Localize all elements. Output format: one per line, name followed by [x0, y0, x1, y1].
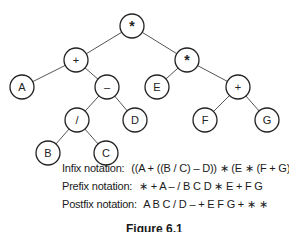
node-label: *: [184, 52, 190, 68]
postfix-expression: A B C / D – + E F G + ∗ ∗: [143, 198, 267, 210]
node-label: E: [153, 81, 160, 93]
tree-node-e: E: [145, 75, 169, 99]
node-label: B: [44, 147, 51, 159]
infix-notation: Infix notation: ((A + ((B / C) – D)) ∗ (…: [62, 162, 289, 175]
tree-node-div: /: [65, 108, 89, 132]
postfix-label: Postfix notation:: [62, 198, 137, 210]
node-label: C: [102, 147, 110, 159]
infix-expression: ((A + ((B / C) – D)) ∗ (E ∗ (F + G))): [131, 162, 289, 174]
prefix-label: Prefix notation:: [62, 180, 132, 192]
tree-node-a: A: [10, 75, 34, 99]
tree-node-d: D: [123, 108, 147, 132]
tree-node-b: B: [36, 141, 60, 165]
infix-label: Infix notation:: [62, 162, 124, 174]
node-label: D: [131, 114, 139, 126]
node-label: F: [202, 114, 209, 126]
tree-node-root: *: [120, 14, 144, 38]
tree-node-g: G: [255, 108, 279, 132]
tree-node-f: F: [193, 108, 217, 132]
node-label: G: [263, 114, 272, 126]
node-label: –: [104, 81, 111, 93]
tree-node-mul2: *: [175, 48, 199, 72]
tree-node-minus: –: [95, 75, 119, 99]
figure-caption: Figure 6.1: [126, 222, 183, 232]
tree-nodes: *+*A–E+/DFGBC: [10, 14, 279, 165]
prefix-expression: ∗ + A – / B C D ∗ E + F G: [139, 180, 263, 192]
tree-node-plus1: +: [64, 48, 88, 72]
node-label: *: [129, 18, 135, 34]
postfix-notation: Postfix notation: A B C / D – + E F G + …: [62, 198, 267, 211]
tree-node-plus2: +: [226, 75, 250, 99]
prefix-notation: Prefix notation: ∗ + A – / B C D ∗ E + F…: [62, 180, 263, 193]
node-label: +: [235, 81, 241, 93]
node-label: A: [18, 81, 26, 93]
node-label: +: [73, 54, 79, 66]
